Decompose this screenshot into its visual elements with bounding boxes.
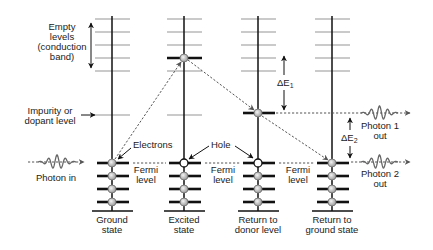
electron-icon	[108, 172, 116, 180]
hole-label: Hole	[211, 139, 231, 150]
conduction-band-label: Empty levels (conduction band)	[37, 21, 86, 62]
electron-icon	[328, 159, 336, 167]
fermi-label-1: Fermi level	[134, 164, 158, 185]
electron-icon	[180, 172, 188, 180]
photon1-out-label-line-2: out	[373, 130, 387, 141]
energy-level-diagram: Empty levels (conduction band) Impurity …	[0, 0, 433, 250]
column-label-ground-line-2: state	[102, 224, 123, 235]
electron-icon	[254, 198, 262, 206]
donor-electron-icon	[254, 109, 262, 117]
delta-e2-subscript: 2	[354, 137, 358, 144]
delta-e2-symbol: ΔE	[341, 132, 354, 143]
electron-icon	[108, 198, 116, 206]
photon2-out-label-line-2: out	[373, 178, 387, 189]
electron-icon	[180, 185, 188, 193]
photon-in-wave-icon	[38, 155, 76, 168]
electron-icon	[108, 159, 116, 167]
hole-pointer-arrow-left	[189, 146, 209, 159]
energy-columns: GroundstateExcitedstateReturn todonor le…	[92, 16, 358, 235]
column-ground: Groundstate	[92, 16, 133, 235]
column-donor: Return todonor level	[235, 16, 281, 235]
hole-pointer-arrow-right	[235, 146, 253, 158]
fermi-label-3: Fermi level	[286, 164, 310, 185]
delta-e1-symbol: ΔE	[277, 77, 290, 88]
column-excited: Excitedstate	[164, 16, 205, 235]
column-label-donor-line-2: donor level	[235, 224, 281, 235]
electron-icon	[254, 172, 262, 180]
fermi-label-2: Fermi level	[211, 164, 235, 185]
delta-e1-label: ΔE1	[277, 77, 294, 89]
electron-icon	[328, 185, 336, 193]
electrons-label: Electrons	[133, 139, 173, 150]
delta-e2-label: ΔE2	[341, 132, 358, 144]
conduction-label-line-4: band)	[50, 51, 74, 62]
column-label-return-ground-line-2: ground state	[306, 224, 359, 235]
electrons-pointer-arrow	[118, 148, 131, 159]
photon-in-label: Photon in	[36, 172, 76, 183]
fermi-label-1-line-2: level	[136, 174, 156, 185]
relax-to-donor-path-arrow	[188, 60, 254, 110]
photon1-out-wave-icon	[361, 106, 398, 119]
return-to-ground-path-arrow	[262, 116, 328, 160]
electron-icon	[108, 185, 116, 193]
hole-icon	[254, 159, 262, 167]
delta-e1-subscript: 1	[290, 82, 294, 89]
impurity-label: Impurity or dopant level	[24, 105, 75, 126]
hole-icon	[180, 159, 188, 167]
impurity-label-line-2: dopant level	[24, 115, 75, 126]
photon2-out-wave-icon	[361, 155, 398, 168]
excited-electron-icon	[180, 54, 188, 62]
electron-icon	[254, 185, 262, 193]
fermi-label-3-line-2: level	[288, 174, 308, 185]
fermi-label-2-line-2: level	[213, 174, 233, 185]
electron-icon	[180, 198, 188, 206]
electron-icon	[328, 172, 336, 180]
electron-icon	[328, 198, 336, 206]
column-label-excited-line-2: state	[174, 224, 195, 235]
